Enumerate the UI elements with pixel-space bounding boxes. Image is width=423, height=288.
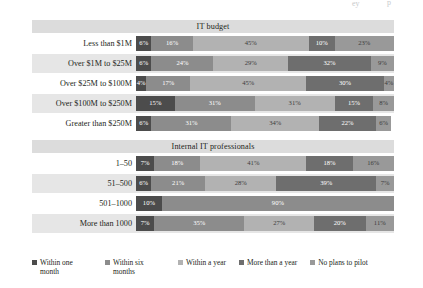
chart-row: 51–5006%21%28%39%7% <box>32 174 394 193</box>
stacked-bar-chart: IT budgetLess than $1M6%16%45%10%23%Over… <box>32 20 394 233</box>
bar-segment[interactable]: 45% <box>193 36 309 51</box>
stacked-bar: 6%31%34%22%6% <box>136 116 394 131</box>
bar-segment[interactable]: 20% <box>314 216 366 231</box>
section-spacer <box>32 133 394 140</box>
bar-segment[interactable]: 7% <box>376 176 394 191</box>
bar-segment[interactable]: 17% <box>146 76 190 91</box>
legend-swatch-icon <box>105 260 110 265</box>
stacked-bar: 15%31%31%15%8% <box>136 96 394 111</box>
legend-item[interactable]: Within a year <box>178 258 226 267</box>
stacked-bar: 7%35%27%20%11% <box>136 216 394 231</box>
chart-page: ey p IT budgetLess than $1M6%16%45%10%23… <box>0 0 423 288</box>
bar-segment[interactable]: 7% <box>136 156 154 171</box>
bar-segment[interactable]: 8% <box>373 96 394 111</box>
legend-item[interactable]: No plans to pilot <box>310 258 367 267</box>
bar-segment[interactable]: 16% <box>151 36 192 51</box>
section-title: IT budget <box>32 20 394 33</box>
chart-legend: Within one monthWithin six monthsWithin … <box>32 258 394 276</box>
bar-segment[interactable]: 15% <box>335 96 374 111</box>
row-label: 1–50 <box>32 154 136 173</box>
bar-segment[interactable]: 10% <box>136 196 162 211</box>
stacked-bar: 6%21%28%39%7% <box>136 176 394 191</box>
chart-row: 501–100010%90% <box>32 194 394 213</box>
bar-segment[interactable]: 6% <box>136 36 151 51</box>
legend-swatch-icon <box>32 260 37 265</box>
bar-segment[interactable]: 45% <box>190 76 306 91</box>
stacked-bar: 10%90% <box>136 196 394 211</box>
bar-segment[interactable]: 41% <box>200 156 306 171</box>
bar-segment[interactable]: 39% <box>276 176 376 191</box>
chart-row: Over $100M to $250M15%31%31%15%8% <box>32 94 394 113</box>
legend-swatch-icon <box>178 260 183 265</box>
bar-segment[interactable]: 6% <box>136 176 151 191</box>
legend-label: Within a year <box>186 258 226 267</box>
row-label: 51–500 <box>32 174 136 193</box>
scan-artifact-right: p <box>387 0 391 7</box>
chart-row: Greater than $250M6%31%34%22%6% <box>32 114 394 133</box>
legend-swatch-icon <box>310 260 315 265</box>
row-label: Over $1M to $25M <box>32 54 136 73</box>
bar-segment[interactable]: 32% <box>288 56 371 71</box>
bar-segment[interactable]: 7% <box>136 216 154 231</box>
chart-sections: IT budgetLess than $1M6%16%45%10%23%Over… <box>32 20 394 233</box>
bar-segment[interactable]: 24% <box>151 56 213 71</box>
stacked-bar: 7%18%41%18%16% <box>136 156 394 171</box>
bar-segment[interactable]: 31% <box>151 116 231 131</box>
bar-segment[interactable]: 30% <box>306 76 383 91</box>
row-label: 501–1000 <box>32 194 136 213</box>
row-label: Over $25M to $100M <box>32 74 136 93</box>
bar-segment[interactable]: 35% <box>154 216 244 231</box>
bar-segment[interactable]: 23% <box>335 36 394 51</box>
legend-label: Within one month <box>40 258 92 276</box>
legend-label: More than a year <box>247 258 297 267</box>
chart-row: More than 10007%35%27%20%11% <box>32 214 394 233</box>
bar-segment[interactable]: 15% <box>136 96 175 111</box>
row-label: Less than $1M <box>32 34 136 53</box>
bar-segment[interactable]: 21% <box>151 176 205 191</box>
bar-segment[interactable]: 18% <box>154 156 200 171</box>
bar-segment[interactable]: 11% <box>366 216 394 231</box>
bar-segment[interactable]: 31% <box>175 96 255 111</box>
bar-segment[interactable]: 28% <box>205 176 277 191</box>
section-title: Internal IT professionals <box>32 140 394 153</box>
bar-segment[interactable]: 18% <box>306 156 352 171</box>
bar-segment[interactable]: 4% <box>384 76 394 91</box>
legend-label: Within six months <box>113 258 165 276</box>
row-label: More than 1000 <box>32 214 136 233</box>
bar-segment[interactable]: 27% <box>244 216 314 231</box>
bar-segment[interactable]: 90% <box>162 196 394 211</box>
bar-segment[interactable]: 34% <box>231 116 319 131</box>
legend-item[interactable]: Within one month <box>32 258 92 276</box>
bar-segment[interactable]: 31% <box>255 96 335 111</box>
stacked-bar: 4%17%45%30%4% <box>136 76 394 91</box>
bar-segment[interactable]: 22% <box>319 116 376 131</box>
bar-segment[interactable]: 16% <box>353 156 394 171</box>
stacked-bar: 6%24%29%32%9% <box>136 56 394 71</box>
bar-segment[interactable]: 6% <box>376 116 391 131</box>
bar-segment[interactable]: 9% <box>371 56 394 71</box>
bar-segment[interactable]: 6% <box>136 116 151 131</box>
scan-artifact-left: ey <box>352 0 360 8</box>
row-label: Over $100M to $250M <box>32 94 136 113</box>
bar-segment[interactable]: 10% <box>309 36 335 51</box>
legend-label: No plans to pilot <box>318 258 367 267</box>
bar-segment[interactable]: 29% <box>213 56 288 71</box>
stacked-bar: 6%16%45%10%23% <box>136 36 394 51</box>
legend-item[interactable]: More than a year <box>239 258 297 267</box>
chart-row: Less than $1M6%16%45%10%23% <box>32 34 394 53</box>
chart-row: 1–507%18%41%18%16% <box>32 154 394 173</box>
bar-segment[interactable]: 4% <box>136 76 146 91</box>
legend-item[interactable]: Within six months <box>105 258 165 276</box>
row-label: Greater than $250M <box>32 114 136 133</box>
bar-segment[interactable]: 6% <box>136 56 151 71</box>
chart-row: Over $1M to $25M6%24%29%32%9% <box>32 54 394 73</box>
chart-row: Over $25M to $100M4%17%45%30%4% <box>32 74 394 93</box>
legend-swatch-icon <box>239 260 244 265</box>
